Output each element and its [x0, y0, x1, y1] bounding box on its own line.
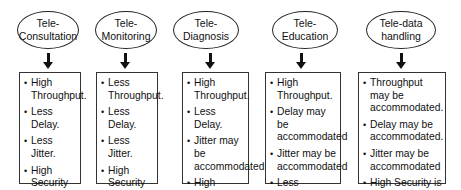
- node-title: Tele- Consultation: [19, 17, 77, 43]
- requirement-item: High Security due to sensitive context.: [187, 177, 245, 190]
- requirement-item: Less Security is required.: [270, 177, 337, 190]
- requirement-item: Less Delay.: [24, 106, 77, 131]
- requirements-box-tele-education: High Throughput. Delay may be accommodat…: [265, 72, 341, 184]
- requirement-item: Throughput may be accommodated.: [363, 77, 442, 115]
- node-tele-diagnosis: Tele- Diagnosis: [173, 11, 239, 49]
- node-tele-data-handling: Tele-data handling: [366, 11, 436, 49]
- requirement-item: Jitter may be accommodated: [270, 148, 337, 173]
- node-title: Tele- Monitoring: [101, 17, 150, 43]
- requirement-item: High Security due to sensitive context.: [101, 165, 154, 190]
- requirement-item: High Security due to sensitive context.: [24, 165, 77, 190]
- requirement-item: Delay may be accommodated.: [363, 119, 442, 144]
- node-title: Tele- Diagnosis: [183, 17, 229, 43]
- requirement-item: Less Delay.: [101, 106, 154, 131]
- requirements-box-tele-data-handling: Throughput may be accommodated. Delay ma…: [358, 72, 446, 184]
- node-tele-education: Tele- Education: [272, 11, 338, 49]
- requirements-box-tele-diagnosis: High Throughput. Less Delay. Jitter may …: [182, 72, 249, 184]
- requirements-box-tele-consultation: High Throughput. Less Delay. Less Jitter…: [19, 72, 81, 184]
- node-title: Tele- Education: [282, 17, 329, 43]
- node-title: Tele-data handling: [379, 17, 422, 43]
- node-tele-monitoring: Tele- Monitoring: [95, 11, 157, 49]
- requirement-item: Less Jitter.: [101, 135, 154, 160]
- requirement-item: High Throughput.: [187, 77, 245, 102]
- requirements-box-tele-monitoring: Less Throughput. Less Delay. Less Jitter…: [96, 72, 158, 184]
- requirement-item: Jitter may be accommodated: [363, 148, 442, 173]
- requirement-item: Less Delay.: [187, 106, 245, 131]
- requirement-item: Less Throughput.: [101, 77, 154, 102]
- requirement-item: Delay may be accommodated: [270, 106, 337, 144]
- requirement-item: High Throughput.: [24, 77, 77, 102]
- requirement-item: High Security is required.: [363, 177, 442, 190]
- requirement-item: Jitter may be accommodated: [187, 135, 245, 173]
- node-tele-consultation: Tele- Consultation: [17, 11, 79, 49]
- requirement-item: Less Jitter.: [24, 135, 77, 160]
- requirement-item: High Throughput.: [270, 77, 337, 102]
